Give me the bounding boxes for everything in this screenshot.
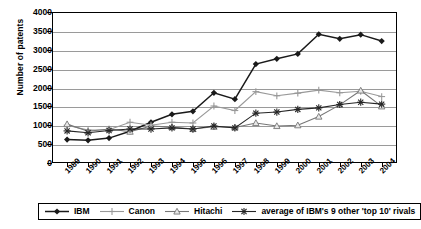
x-tick-label: 1995 xyxy=(189,156,208,175)
x-tick-label: 1997 xyxy=(231,156,250,175)
data-point-asterisk xyxy=(241,208,248,215)
legend-entry-average-of-ibm-s-9-other-top-10-rivals[interactable]: average of IBM's 9 other 'top 10' rivals xyxy=(231,206,415,217)
x-tick-label: 1991 xyxy=(105,156,124,175)
data-point-plus xyxy=(108,208,115,215)
x-tick-label: 2001 xyxy=(315,156,334,175)
x-tick-label: 2004 xyxy=(378,156,397,175)
legend-entry-hitachi[interactable]: Hitachi xyxy=(164,206,222,217)
x-tick-label: 1999 xyxy=(273,156,292,175)
legend-entry-canon[interactable]: Canon xyxy=(99,206,155,217)
patents-line-chart: Number of patents 0500100015002000250030… xyxy=(0,0,421,229)
legend-entry-ibm[interactable]: IBM xyxy=(44,206,90,217)
x-tick-label: 1996 xyxy=(210,156,229,175)
x-tick-label: 1989 xyxy=(63,156,82,175)
chart-legend: IBMCanonHitachiaverage of IBM's 9 other … xyxy=(38,203,421,220)
legend-label: Canon xyxy=(129,207,155,216)
x-tick-label: 2000 xyxy=(294,156,313,175)
legend-label: Hitachi xyxy=(194,207,222,216)
legend-swatch-triangle-icon xyxy=(164,206,190,217)
x-tick-label: 1998 xyxy=(252,156,271,175)
x-tick-label: 2003 xyxy=(357,156,376,175)
legend-swatch-asterisk-icon xyxy=(231,206,257,217)
legend-swatch-plus-icon xyxy=(99,206,125,217)
legend-label: average of IBM's 9 other 'top 10' rivals xyxy=(261,207,415,216)
x-tick-label: 1992 xyxy=(126,156,145,175)
x-tick-label: 1990 xyxy=(84,156,103,175)
x-tick-label: 1993 xyxy=(147,156,166,175)
x-tick-label: 2002 xyxy=(336,156,355,175)
x-tick-label: 1994 xyxy=(168,156,187,175)
legend-swatch-diamond-icon xyxy=(44,206,70,217)
data-point-diamond xyxy=(54,208,60,214)
x-axis-tick-labels: 1989199019911992199319941995199619971998… xyxy=(0,0,421,229)
legend-label: IBM xyxy=(74,207,90,216)
